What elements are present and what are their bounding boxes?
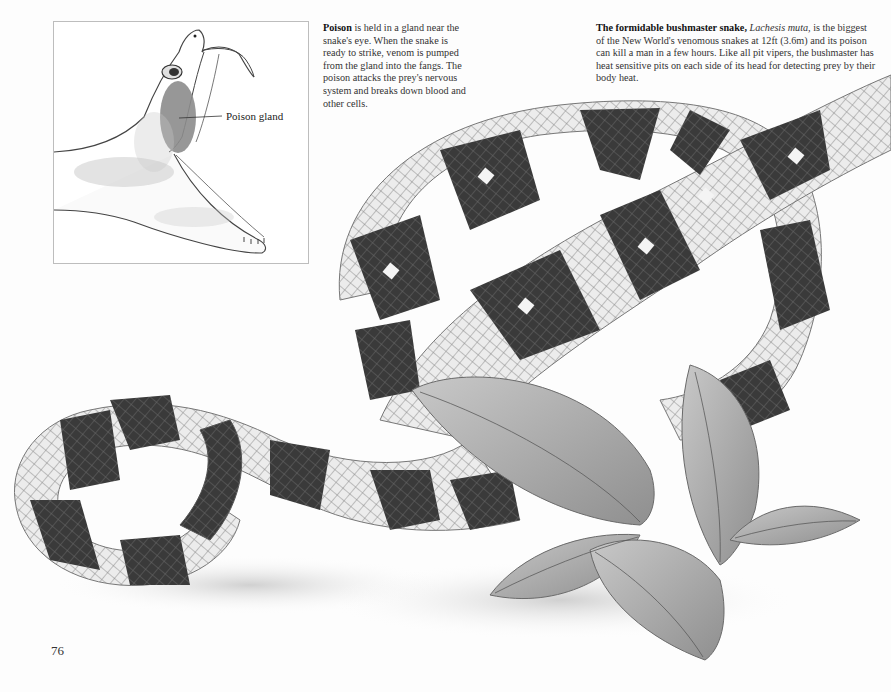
poison-gland-label: Poison gland	[226, 110, 283, 122]
poison-caption: Poison is held in a gland near the snake…	[323, 22, 473, 110]
poison-caption-body: is held in a gland near the snake's eye.…	[323, 22, 466, 109]
poison-gland-diagram: Poison gland	[53, 21, 309, 264]
bushmaster-caption-lead: The formidable bushmaster snake,	[596, 22, 747, 33]
poison-caption-lead: Poison	[323, 22, 352, 33]
book-page: Poison gland Poison is held in a gland n…	[0, 0, 891, 692]
bushmaster-caption: The formidable bushmaster snake, Lachesi…	[596, 22, 876, 85]
species-name: Lachesis muta,	[750, 22, 811, 33]
snake-head-drawing	[54, 22, 308, 263]
page-number: 76	[51, 643, 64, 659]
